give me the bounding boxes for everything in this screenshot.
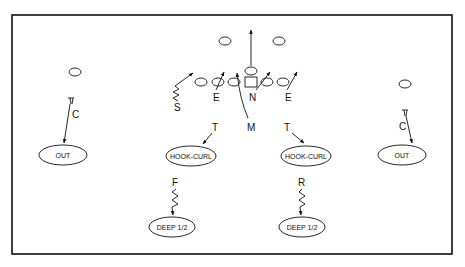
defender-label-f: F [172,177,178,188]
defender-label-e-right: E [285,92,292,103]
svg-text:DEEP 1/2: DEEP 1/2 [287,224,318,231]
coverage-diagram: S E N E M T T C C F R OUT HOOK-CURL HOOK… [0,0,465,267]
r-drop-zigzag [299,189,305,215]
offense-back-right [273,37,285,45]
defender-label-r: R [298,177,305,188]
offense-lineman [261,78,273,86]
svg-text:DEEP 1/2: DEEP 1/2 [157,224,188,231]
zone-hook-curl-left: HOOK-CURL [166,146,216,166]
zone-deep-half-right: DEEP 1/2 [279,217,325,237]
defender-label-c-right: C [399,121,406,132]
zone-deep-half-left: DEEP 1/2 [149,217,195,237]
defender-label-t-left: T [212,122,218,133]
offense-back-left [219,37,231,45]
defender-label-e-left: E [213,92,220,103]
s-rush-zigzag [173,73,193,101]
offense-qb [245,67,257,75]
offense-receiver-right [399,80,411,88]
defender-label-t-right: T [284,122,290,133]
c-right-stance [402,110,408,116]
offense-lineman [195,78,207,86]
c-left-stance [68,98,74,104]
svg-text:OUT: OUT [395,152,411,159]
defender-label-s: S [174,102,181,113]
zone-out-right: OUT [378,145,426,165]
c-right-drop-arrow [406,116,412,143]
t-right-drop-arrow [292,133,304,143]
svg-text:HOOK-CURL: HOOK-CURL [285,153,327,160]
svg-text:HOOK-CURL: HOOK-CURL [170,153,212,160]
field-frame [12,15,452,254]
offense-lineman [277,78,289,86]
offense-receiver-left [69,68,81,76]
c-left-drop-arrow [64,104,70,143]
defender-label-n: N [249,92,256,103]
defender-label-m: M [247,122,255,133]
f-drop-zigzag [172,189,178,215]
svg-text:OUT: OUT [56,152,72,159]
t-left-drop-arrow [203,133,212,144]
zone-hook-curl-right: HOOK-CURL [281,146,331,166]
defender-label-c-left: C [72,109,79,120]
zone-out-left: OUT [39,145,87,165]
offense-center-square [245,77,257,87]
